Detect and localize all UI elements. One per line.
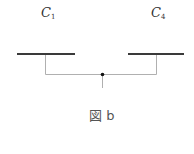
diagram-canvas: C1 C4 図 b — [0, 0, 194, 154]
figure-caption: 図 b — [89, 109, 114, 122]
junction-dot — [101, 73, 105, 77]
circuit-diagram — [0, 0, 194, 154]
